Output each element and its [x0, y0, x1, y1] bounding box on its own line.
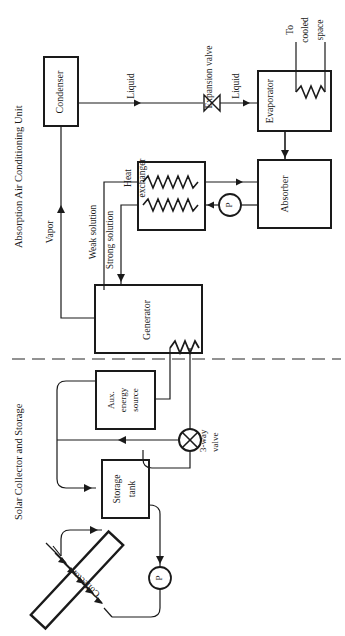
storage-tank-label-line1: Storage	[112, 474, 122, 503]
section-title-absorption: Absorption Air Conditioning Unit	[13, 105, 24, 248]
three-way-valve-label-line1: 3-way	[198, 429, 208, 452]
cooled-space-label-line3: space	[315, 19, 325, 40]
expansion-valve-label: Expansion valve	[204, 45, 214, 108]
diagram-canvas: Absorption Air Conditioning Unit Solar C…	[0, 0, 345, 636]
solar-pump-label: P	[154, 575, 164, 580]
liquid-label-1: Liquid	[126, 73, 136, 99]
three-way-valve-label-line2: valve	[210, 433, 220, 453]
cooled-space-label-line1: To	[285, 25, 295, 35]
aux-energy-label-line3: source	[130, 388, 140, 412]
section-title-solar: Solar Collector and Storage	[13, 403, 24, 520]
storage-tank-label-line2: tank	[127, 481, 137, 498]
heat-exchanger-label-line1: Heat	[123, 169, 133, 187]
cooled-space-label-line2: cooled	[300, 17, 310, 43]
condenser-label: Condenser	[54, 70, 65, 113]
aux-energy-label-line1: Aux.	[106, 391, 116, 409]
strong-solution-label: Strong solution	[105, 211, 115, 270]
canvas-background	[0, 0, 345, 636]
weak-solution-label: Weak solution	[88, 205, 98, 260]
heat-exchanger-label-line2: exchanger	[137, 158, 147, 198]
aux-energy-label-line2: energy	[118, 387, 128, 412]
liquid-label-2: Liquid	[231, 73, 241, 99]
absorber-label: Absorber	[279, 175, 290, 213]
vapor-label: Vapor	[45, 220, 55, 244]
generator-label: Generator	[141, 299, 152, 340]
schematic-svg: Absorption Air Conditioning Unit Solar C…	[0, 0, 345, 636]
evaporator-label: Evaporator	[264, 78, 275, 123]
solution-pump-label: P	[224, 202, 234, 207]
